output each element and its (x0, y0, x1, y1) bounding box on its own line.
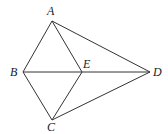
geometry-diagram: A B E D C (0, 0, 168, 134)
segment-bc (23, 72, 52, 120)
segment-ab (23, 21, 52, 72)
label-d: D (152, 65, 162, 79)
label-b: B (10, 65, 18, 79)
label-c: C (47, 120, 56, 134)
label-e: E (82, 57, 91, 71)
label-a: A (46, 4, 55, 18)
